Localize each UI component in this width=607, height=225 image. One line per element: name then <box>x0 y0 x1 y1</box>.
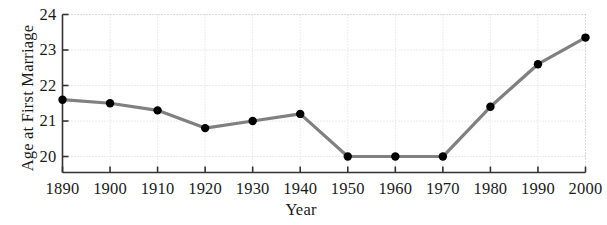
data-point-marker <box>391 152 399 160</box>
data-point-marker <box>296 110 304 118</box>
y-tick-label: 21 <box>21 111 57 131</box>
data-point-marker <box>581 33 589 41</box>
data-point-marker <box>248 117 256 125</box>
y-tick-label: 20 <box>21 147 57 167</box>
x-axis-title: Year <box>0 200 602 220</box>
data-point-marker <box>58 96 66 104</box>
data-point-marker <box>201 124 209 132</box>
data-point-marker <box>153 106 161 114</box>
data-series-line <box>63 38 586 157</box>
y-tick-label: 24 <box>21 5 57 25</box>
data-point-marker <box>439 152 447 160</box>
y-tick-label: 22 <box>21 76 57 96</box>
data-point-marker <box>534 60 542 68</box>
data-point-marker <box>486 103 494 111</box>
data-point-marker <box>344 152 352 160</box>
data-point-marker <box>106 99 114 107</box>
y-tick-label: 23 <box>21 40 57 60</box>
data-points <box>58 33 589 160</box>
x-tick-label: 2000 <box>556 179 607 199</box>
